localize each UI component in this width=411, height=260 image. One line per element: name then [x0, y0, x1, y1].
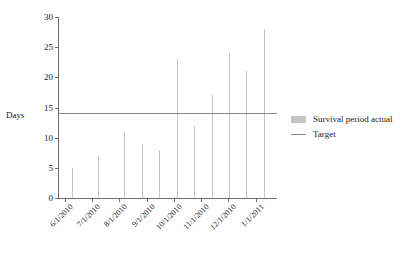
- y-axis-title: Days: [6, 110, 25, 120]
- bar: [159, 150, 160, 198]
- y-tick-label: 20: [44, 73, 59, 82]
- x-tick-label: 6/1/2010: [49, 203, 75, 229]
- bars-layer: [59, 17, 277, 198]
- target-line: [59, 113, 277, 114]
- x-tick-label: 11/1/2010: [182, 203, 210, 231]
- x-tick-label: 7/1/2010: [76, 203, 102, 229]
- bar: [212, 95, 213, 198]
- plot-area: 0510152025306/1/20107/1/20108/1/20109/1/…: [58, 17, 277, 199]
- x-tick-label: 10/1/2010: [155, 203, 184, 232]
- bar: [194, 126, 195, 198]
- bar: [229, 53, 230, 198]
- y-tick-label: 0: [49, 194, 60, 203]
- x-tick-label: 9/1/2010: [131, 203, 157, 229]
- y-tick-label: 25: [44, 43, 59, 52]
- x-tick-mark: [119, 198, 120, 202]
- legend-label: Target: [313, 130, 336, 139]
- legend-item-target: Target: [291, 127, 392, 142]
- bar: [142, 144, 143, 198]
- survival-period-chart: Days 0510152025306/1/20107/1/20108/1/201…: [0, 0, 411, 260]
- bar: [124, 132, 125, 198]
- y-tick-label: 5: [49, 163, 60, 172]
- legend-item-survival-period-actual: Survival period actual: [291, 112, 392, 127]
- y-tick-label: 10: [44, 133, 59, 142]
- x-tick-mark: [174, 198, 175, 202]
- legend-label: Survival period actual: [313, 115, 392, 124]
- y-tick-label: 15: [44, 103, 59, 112]
- x-tick-mark: [256, 198, 257, 202]
- x-tick-label: 8/1/2010: [103, 203, 129, 229]
- bar: [72, 168, 73, 198]
- chart-legend: Survival period actual Target: [291, 112, 392, 142]
- x-tick-label: 1/1/2011: [240, 203, 266, 229]
- y-tick-label: 30: [44, 13, 59, 22]
- bar: [177, 59, 178, 198]
- legend-swatch-icon: [291, 116, 306, 123]
- x-tick-label: 12/1/2010: [209, 203, 238, 232]
- legend-line-icon: [291, 134, 306, 135]
- bar: [98, 156, 99, 198]
- x-tick-mark: [92, 198, 93, 202]
- x-tick-mark: [65, 198, 66, 202]
- x-tick-mark: [147, 198, 148, 202]
- bar: [246, 71, 247, 198]
- x-tick-mark: [201, 198, 202, 202]
- x-tick-mark: [228, 198, 229, 202]
